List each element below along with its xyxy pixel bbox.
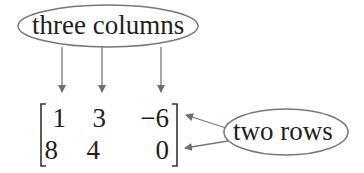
right-bracket xyxy=(172,104,177,166)
matrix-cell-r2c2: 4 xyxy=(60,137,100,164)
row-arrow-1 xyxy=(186,115,226,128)
matrix-cell-r1c1: 1 xyxy=(26,105,66,132)
matrix-cell-r2c3: 0 xyxy=(129,137,169,164)
columns-label: three columns xyxy=(32,12,184,39)
row-arrow-2 xyxy=(185,141,228,148)
rows-label: two rows xyxy=(233,118,333,145)
matrix-cell-r1c3: −6 xyxy=(129,105,169,132)
matrix-cell-r1c2: 3 xyxy=(66,105,106,132)
matrix-cell-r2c1: 8 xyxy=(18,137,58,164)
